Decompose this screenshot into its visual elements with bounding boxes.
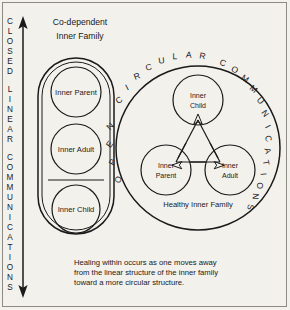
axis-letter: S: [7, 47, 13, 56]
axis-letter: A: [7, 233, 13, 242]
axis-letter: I: [9, 253, 11, 262]
axis-letter: C: [7, 223, 13, 232]
figure-caption: Healing within occurs as one moves away …: [74, 258, 276, 289]
axis-letter: N: [7, 203, 13, 212]
arc-letter: C: [218, 57, 227, 69]
co-dependent-heading: Co-dependent Inner Family: [53, 17, 108, 41]
arc-letter: R: [132, 70, 141, 82]
co-dependent-members: Inner Parent Inner Adult Inner Child: [51, 67, 101, 233]
arc-letter: C: [114, 94, 125, 106]
axis-letter: E: [7, 115, 13, 124]
axis-letter: I: [9, 95, 11, 104]
node-label-inner-adult-1: Inner: [222, 162, 239, 169]
healthy-inner-family-label: Healthy Inner Family: [163, 200, 233, 209]
axis-letter: E: [7, 57, 13, 66]
axis-letter: C: [7, 17, 13, 26]
axis-letter: M: [7, 183, 14, 192]
node-label-inner-parent-2: Parent: [156, 172, 177, 179]
arc-letter: A: [186, 50, 193, 60]
axis-letter: O: [7, 263, 13, 272]
axis-letter: U: [7, 193, 13, 202]
arrowhead-up: [194, 114, 202, 124]
node-label-inner-adult-2: Adult: [222, 172, 238, 179]
arc-letter: I: [263, 123, 273, 130]
axis-letter: I: [9, 213, 11, 222]
arc-letter: N: [259, 108, 271, 119]
node-circle-inner-adult: [205, 145, 255, 195]
axis-letter: A: [7, 125, 13, 134]
arc-letter: U: [255, 95, 267, 106]
node-circle-inner-parent: [141, 145, 191, 195]
arc-letter: S: [245, 203, 256, 211]
arc-letter: C: [263, 134, 275, 144]
axis-letter: N: [7, 273, 13, 282]
figure-root: C L O S E D L I N E A R C O M M U N I C …: [0, 0, 290, 310]
arc-letter: O: [255, 182, 265, 189]
arc-letter: N: [251, 193, 262, 200]
arc-letter: U: [158, 55, 165, 66]
axis-letter: L: [8, 27, 13, 36]
arc-letter: R: [199, 50, 207, 61]
caption-line-1: Healing within occurs as one moves away: [74, 258, 276, 268]
caption-line-3: toward a more circular structure.: [74, 278, 276, 288]
arc-letter: L: [172, 51, 177, 61]
axis-letter: L: [8, 85, 13, 94]
axis-letter: O: [7, 37, 13, 46]
arc-letter: C: [144, 62, 152, 73]
node-label-inner-parent-1: Inner: [158, 162, 175, 169]
axis-letter: T: [7, 243, 12, 252]
arc-letter: I: [258, 173, 268, 176]
member-label-inner-child: Inner Child: [58, 205, 95, 214]
node-circle-inner-child: [173, 75, 223, 125]
axis-letter: C: [7, 153, 13, 162]
arc-letter: M: [239, 72, 251, 84]
heading-line-2: Inner Family: [56, 31, 104, 41]
axis-letter: N: [7, 105, 13, 114]
closed-linear-communications-axis: C L O S E D L I N E A R C O M M U N I C …: [7, 17, 14, 292]
member-label-inner-parent: Inner Parent: [55, 88, 98, 97]
node-label-inner-child-2: Child: [190, 102, 206, 109]
axis-letter: D: [7, 67, 13, 76]
caption-line-2: from the linear structure of the inner f…: [74, 268, 276, 278]
arc-letter: A: [262, 147, 273, 156]
node-label-inner-child-1: Inner: [190, 92, 207, 99]
arc-letter: T: [261, 159, 272, 167]
axis-letter: R: [7, 135, 13, 144]
axis-letter: S: [7, 283, 13, 292]
healthy-family-nodes: Inner Child Inner Parent Inner Adult: [141, 75, 255, 195]
axis-letter: O: [7, 163, 13, 172]
arc-letter: O: [230, 64, 241, 76]
axis-letter: M: [7, 173, 14, 182]
arc-letter: I: [124, 82, 131, 92]
vertical-double-arrow: [18, 16, 27, 298]
member-label-inner-adult: Inner Adult: [58, 145, 95, 154]
heading-line-1: Co-dependent: [53, 17, 108, 27]
triangle-connector: [172, 114, 225, 169]
